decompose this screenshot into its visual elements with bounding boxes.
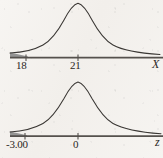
normal-curve-chart-upper: 18 21 X [0,0,163,80]
z-tick-label-minus-3: -3.00 [6,138,28,150]
x-axis-variable-label: X [152,57,159,72]
z-tick-label-zero: 0 [73,138,78,150]
normal-density-curve-upper [10,3,160,54]
normal-curve-chart-lower: -3.00 0 z [0,79,163,158]
x-tick-label-18: 18 [16,59,27,71]
x-tick-label-21: 21 [70,59,81,71]
normal-density-curve-lower [10,82,161,134]
z-axis-variable-label: z [155,135,160,150]
figure-canvas: 18 21 X -3.00 0 z [0,0,163,158]
